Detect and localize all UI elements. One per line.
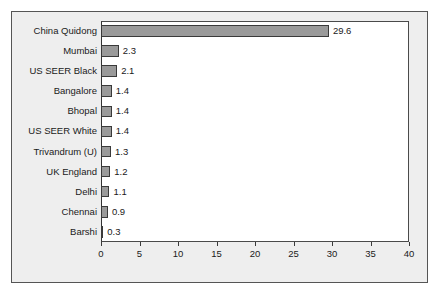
- bar-value-label: 1.4: [116, 121, 129, 141]
- x-axis-tick: [371, 242, 372, 246]
- bar-value-label: 0.3: [107, 222, 120, 242]
- bar: [101, 25, 329, 37]
- bar: [101, 186, 109, 198]
- bar-value-label: 1.1: [113, 182, 126, 202]
- bar-row: 2.1: [101, 61, 409, 81]
- bar-row: 1.4: [101, 101, 409, 121]
- bar: [101, 226, 103, 238]
- x-axis-tick-label: 30: [327, 248, 338, 259]
- x-axis-tick-label: 35: [365, 248, 376, 259]
- category-label: Mumbai: [63, 41, 97, 61]
- bar: [101, 166, 110, 178]
- bar-row: 1.4: [101, 121, 409, 141]
- bar-row: 29.6: [101, 21, 409, 41]
- bar: [101, 85, 112, 97]
- bar-value-label: 0.9: [112, 202, 125, 222]
- bar-value-label: 1.4: [116, 81, 129, 101]
- x-axis-tick: [178, 242, 179, 246]
- bar-row: 0.3: [101, 222, 409, 242]
- x-axis-tick-label: 40: [404, 248, 415, 259]
- x-axis-tick-label: 20: [250, 248, 261, 259]
- x-axis-tick-label: 15: [211, 248, 222, 259]
- bar-row: 1.3: [101, 142, 409, 162]
- bar: [101, 206, 108, 218]
- category-label: Barshi: [70, 222, 97, 242]
- x-axis-tick-label: 5: [137, 248, 142, 259]
- category-axis-labels: China QuidongMumbaiUS SEER BlackBangalor…: [12, 21, 97, 242]
- value-axis: 0510152025303540: [101, 242, 409, 272]
- x-axis-tick-label: 0: [98, 248, 103, 259]
- category-label: US SEER White: [28, 121, 97, 141]
- bar: [101, 45, 119, 57]
- bar-value-label: 1.4: [116, 101, 129, 121]
- x-axis-tick: [217, 242, 218, 246]
- x-axis-tick: [140, 242, 141, 246]
- category-label: US SEER Black: [29, 61, 97, 81]
- bar-value-label: 1.3: [115, 142, 128, 162]
- category-label: UK England: [46, 162, 97, 182]
- x-axis-tick: [409, 242, 410, 246]
- bar-value-label: 1.2: [114, 162, 127, 182]
- category-label: Delhi: [75, 182, 97, 202]
- category-label: Bangalore: [54, 81, 97, 101]
- category-label: Chennai: [62, 202, 97, 222]
- bar-row: 1.2: [101, 162, 409, 182]
- bar-row: 2.3: [101, 41, 409, 61]
- bar-value-label: 2.3: [123, 41, 136, 61]
- x-axis-tick-label: 25: [288, 248, 299, 259]
- bar-value-label: 2.1: [121, 61, 134, 81]
- bar-row: 1.4: [101, 81, 409, 101]
- bar-chart-figure: China QuidongMumbaiUS SEER BlackBangalor…: [0, 0, 438, 293]
- bar: [101, 126, 112, 138]
- category-label: Trivandrum (U): [33, 142, 97, 162]
- bar-value-label: 29.6: [333, 21, 352, 41]
- category-label: China Quidong: [34, 21, 97, 41]
- x-axis-tick: [101, 242, 102, 246]
- category-label: Bhopal: [67, 101, 97, 121]
- x-axis-tick: [332, 242, 333, 246]
- bar: [101, 106, 112, 118]
- x-axis-tick-label: 10: [173, 248, 184, 259]
- bars-layer: 29.62.32.11.41.41.41.31.21.10.90.3: [101, 21, 409, 242]
- bar: [101, 146, 111, 158]
- x-axis-tick: [294, 242, 295, 246]
- bar: [101, 65, 117, 77]
- bar-row: 1.1: [101, 182, 409, 202]
- chart-outer-frame: China QuidongMumbaiUS SEER BlackBangalor…: [11, 11, 428, 283]
- bar-row: 0.9: [101, 202, 409, 222]
- x-axis-tick: [255, 242, 256, 246]
